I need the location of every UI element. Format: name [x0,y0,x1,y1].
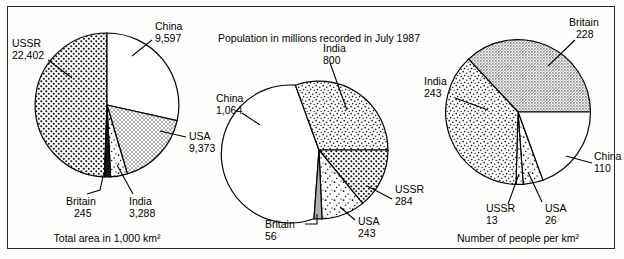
label-pop-britain-value: 56 [265,230,277,242]
label-den-britain-value: 228 [576,28,594,40]
label-den-ussr-value: 13 [486,214,498,226]
label-area-india-name: India [129,195,152,207]
label-pop-usa-name: USA [358,215,380,227]
label-pop-usa-value: 243 [358,227,376,239]
label-area-china-value: 9,597 [155,32,181,44]
label-area-china-name: China [155,20,183,32]
label-area-ussr-value: 22,402 [12,49,44,61]
label-den-ussr-name: USSR [486,202,516,214]
figure-stage: China 9,597 USA 9,373 India 3,288 Britai… [0,0,624,259]
label-den-britain-name: Britain [569,16,599,28]
label-area-india-value: 3,288 [129,207,155,219]
label-den-china-value: 110 [594,162,611,174]
label-den-usa-name: USA [545,202,567,214]
label-area-britain-value: 245 [74,207,92,219]
caption-density: Number of people per km² [457,232,579,244]
label-den-usa-value: 26 [545,214,557,226]
label-pop-britain-name: Britain [265,218,295,230]
pie-charts-figure: China 9,597 USA 9,373 India 3,288 Britai… [0,0,624,259]
caption-total-area: Total area in 1,000 km² [54,232,161,244]
label-pop-china-name: China [216,92,244,104]
label-den-india-name: India [424,75,447,87]
label-pop-india-value: 800 [323,54,341,66]
pie-chart-density: Britain 228 India 243 China 110 USA 26 U… [424,16,622,244]
label-area-usa-name: USA [189,130,211,142]
pie-chart-total-area: China 9,597 USA 9,373 India 3,288 Britai… [12,20,215,244]
label-den-china-name: China [594,150,622,162]
label-pop-china-value: 1,064 [216,104,242,116]
label-area-ussr-name: USSR [12,37,42,49]
label-pop-ussr-name: USSR [395,183,425,195]
wedge-area-ussr[interactable] [35,33,107,177]
label-pop-ussr-value: 284 [395,195,413,207]
pie-chart-population: India 800 China 1,064 USSR 284 USA 243 B… [216,32,425,242]
label-den-india-value: 243 [424,87,442,99]
label-area-usa-value: 9,373 [189,142,215,154]
label-area-britain-name: Britain [66,195,96,207]
figure-title: Population in millions recorded in July … [218,32,420,44]
